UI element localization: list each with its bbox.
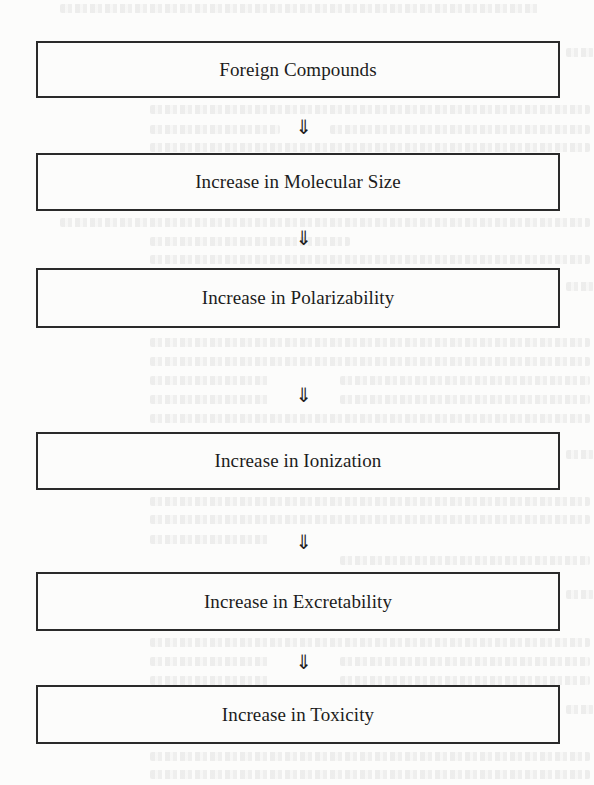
double-down-arrow-icon: ⇓ bbox=[294, 226, 314, 250]
node-label: Increase in Ionization bbox=[215, 450, 382, 472]
node-label: Increase in Polarizability bbox=[202, 287, 395, 309]
node-polarizability: Increase in Polarizability bbox=[36, 268, 560, 328]
node-molecular-size: Increase in Molecular Size bbox=[36, 153, 560, 211]
node-toxicity: Increase in Toxicity bbox=[36, 685, 560, 744]
node-ionization: Increase in Ionization bbox=[36, 432, 560, 490]
node-foreign-compounds: Foreign Compounds bbox=[36, 41, 560, 98]
double-down-arrow-icon: ⇓ bbox=[294, 650, 314, 674]
node-label: Increase in Toxicity bbox=[222, 704, 374, 726]
node-label: Increase in Molecular Size bbox=[195, 171, 401, 193]
double-down-arrow-icon: ⇓ bbox=[294, 115, 314, 139]
node-excretability: Increase in Excretability bbox=[36, 572, 560, 631]
double-down-arrow-icon: ⇓ bbox=[294, 383, 314, 407]
node-label: Increase in Excretability bbox=[204, 591, 392, 613]
node-label: Foreign Compounds bbox=[219, 59, 376, 81]
double-down-arrow-icon: ⇓ bbox=[294, 530, 314, 554]
